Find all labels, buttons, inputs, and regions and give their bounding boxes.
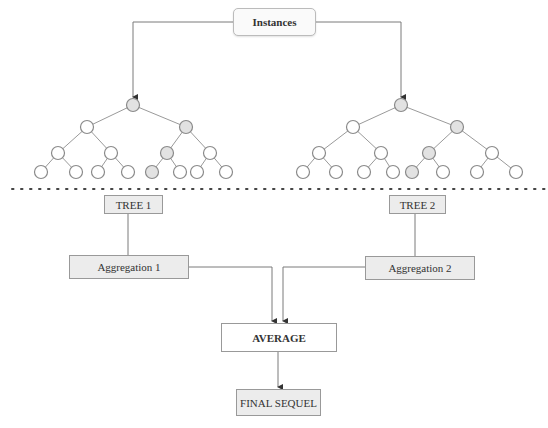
- tree-edge: [133, 105, 186, 127]
- tree-edge: [401, 105, 457, 127]
- tree-1-node: [122, 166, 135, 179]
- aggregation-2-box: Aggregation 2: [365, 256, 475, 280]
- final-sequel-box: FINAL SEQUEL: [236, 389, 321, 416]
- tree-nodes: [35, 99, 523, 179]
- tree-edges: [41, 105, 516, 172]
- tree-1-node: [92, 166, 105, 179]
- tree-2-node: [358, 166, 371, 179]
- aggregation-1-box: Aggregation 1: [69, 255, 189, 279]
- tree-1-node: [70, 166, 83, 179]
- tree-2-node: [451, 121, 464, 134]
- tree-1-node: [161, 147, 174, 160]
- tree-1-node: [81, 121, 94, 134]
- tree-2-node: [375, 147, 388, 160]
- tree-edge: [353, 105, 401, 127]
- tree-1-node: [174, 166, 187, 179]
- flow-connectors: [128, 214, 415, 387]
- tree-2-node: [313, 147, 326, 160]
- tree-1-label: TREE 1: [104, 195, 163, 214]
- tree-1-node: [127, 99, 140, 112]
- tree-1-node: [204, 147, 217, 160]
- diagram-canvas: [0, 0, 548, 428]
- tree-2-node: [406, 166, 419, 179]
- tree-2-node: [471, 166, 484, 179]
- tree-edge: [87, 105, 133, 127]
- tree-1-node: [52, 147, 65, 160]
- tree-1-node: [35, 166, 48, 179]
- tree-1-node: [180, 121, 193, 134]
- tree-2-node: [297, 166, 310, 179]
- tree-2-node: [486, 147, 499, 160]
- tree-1-node: [220, 166, 233, 179]
- tree-2-node: [510, 166, 523, 179]
- average-box: AVERAGE: [221, 323, 337, 352]
- tree-1-node: [191, 166, 204, 179]
- tree-2-node: [387, 166, 400, 179]
- tree-2-node: [437, 166, 450, 179]
- instances-box: Instances: [233, 8, 316, 36]
- tree-2-node: [423, 147, 436, 160]
- tree-1-node: [146, 166, 159, 179]
- tree-2-label: TREE 2: [389, 195, 446, 214]
- tree-2-node: [330, 166, 343, 179]
- tree-1-node: [105, 147, 118, 160]
- tree-2-node: [347, 121, 360, 134]
- tree-2-node: [395, 99, 408, 112]
